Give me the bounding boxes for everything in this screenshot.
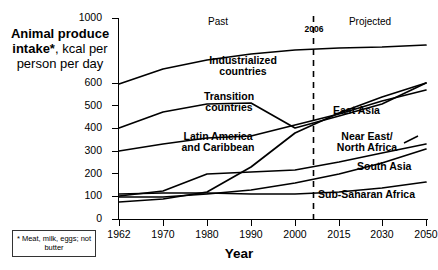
x-axis-title: Year — [199, 246, 279, 261]
x-tick-2050: 2050 — [406, 228, 438, 240]
y-axis-ticks — [112, 19, 119, 220]
series-label-sub-saharan-africa: Sub-Saharan Africa — [318, 188, 428, 200]
series-label-latin-america-caribbean: Latin America and Caribbean — [168, 131, 268, 153]
x-tick-1990: 1990 — [231, 228, 271, 240]
x-tick-1970: 1970 — [143, 228, 183, 240]
series-label-transition-line2: countries — [205, 101, 252, 113]
series-label-industrialized-line2: countries — [219, 65, 266, 77]
y-tick-0: 0 — [68, 213, 102, 223]
series-label-industrialized-countries: Industrialized countries — [196, 55, 290, 77]
y-tick-200: 200 — [68, 168, 102, 178]
annotation-divider-year: 2006 — [294, 24, 334, 34]
x-tick-2015: 2015 — [319, 228, 359, 240]
series-label-south-asia: South Asia — [357, 160, 427, 172]
series-label-east-asia: East Asia — [333, 104, 403, 116]
y-tick-100: 100 — [68, 190, 102, 200]
annotation-projected: Projected — [338, 16, 402, 27]
y-tick-500: 500 — [68, 100, 102, 110]
series-label-near-east-north-africa: Near East/ North Africa — [330, 131, 404, 153]
y-tick-600: 600 — [68, 77, 102, 87]
x-tick-2030: 2030 — [362, 228, 402, 240]
y-tick-300: 300 — [68, 145, 102, 155]
series-label-near-east-line2: North Africa — [337, 141, 397, 153]
annotation-past: Past — [196, 16, 240, 27]
chart-root: Animal produce intake*, kcal per person … — [0, 0, 438, 270]
x-tick-1980: 1980 — [187, 228, 227, 240]
x-tick-2000: 2000 — [275, 228, 315, 240]
leader-line-near-east — [404, 136, 418, 143]
series-label-transition-countries: Transition countries — [190, 91, 268, 113]
y-tick-1000: 1000 — [68, 12, 102, 22]
x-axis-ticks — [120, 220, 427, 227]
x-tick-1962: 1962 — [99, 228, 139, 240]
series-label-latin-line2: and Caribbean — [182, 141, 255, 153]
footnote-box: * Meat, milk, eggs; not butter — [12, 230, 96, 257]
y-tick-400: 400 — [68, 122, 102, 132]
